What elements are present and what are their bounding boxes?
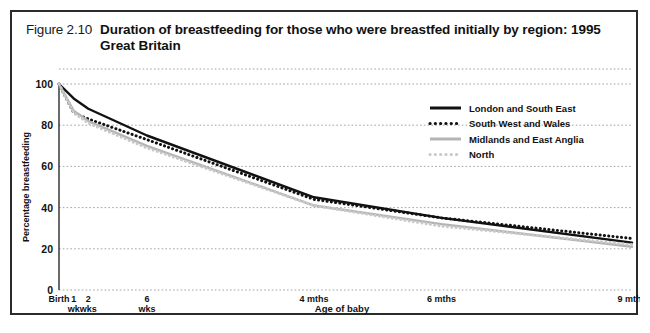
x-tick-label: 6 <box>144 294 149 304</box>
chart-plot-area: 020406080100 Birth1wk2wks6wks4 mths6 mth… <box>12 12 640 317</box>
legend-label-1: South West and Wales <box>469 118 570 129</box>
legend-label-2: Midlands and East Anglia <box>469 134 584 145</box>
chart-legend: London and South EastSouth West and Wale… <box>430 103 584 161</box>
legend-label-0: London and South East <box>469 103 576 114</box>
x-tick-label: wks <box>79 304 97 314</box>
y-tick-label: 20 <box>41 243 53 255</box>
figure-frame: Figure 2.10 Duration of breastfeeding fo… <box>10 10 638 315</box>
x-tick-label: wks <box>137 304 155 314</box>
x-tick-label: wk <box>67 304 81 314</box>
line-chart-svg: 020406080100 Birth1wk2wks6wks4 mths6 mth… <box>12 12 640 317</box>
x-tick-label: 6 mths <box>427 294 456 304</box>
y-tick-label: 80 <box>41 119 53 131</box>
x-tick-label: 1 <box>71 294 76 304</box>
x-tick-label: 9 mths <box>617 294 640 304</box>
x-axis-title: Age of baby <box>315 303 370 314</box>
x-tick-label: Birth <box>49 294 70 304</box>
x-tick-label: 2 <box>86 294 91 304</box>
y-tick-label: 40 <box>41 202 53 214</box>
y-tick-labels-group: 020406080100 <box>35 78 53 296</box>
y-axis-title: Percentage breastfeeding <box>21 132 31 242</box>
y-tick-label: 60 <box>41 160 53 172</box>
legend-label-3: North <box>469 149 495 160</box>
y-tick-label: 100 <box>35 78 53 90</box>
